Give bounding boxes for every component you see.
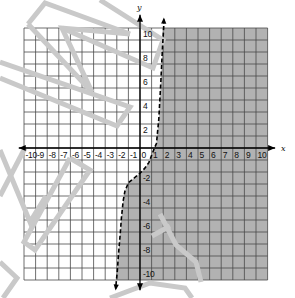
x-tick-label: -10 bbox=[26, 150, 38, 160]
y-tick-label: -10 bbox=[143, 269, 155, 279]
y-tick-label: 2 bbox=[143, 125, 148, 135]
x-tick-label: 8 bbox=[234, 150, 239, 160]
x-tick-label: -5 bbox=[84, 150, 92, 160]
x-tick-label: 6 bbox=[211, 150, 216, 160]
y-tick-label: 4 bbox=[143, 101, 148, 111]
y-tick-label: 8 bbox=[143, 53, 148, 63]
x-tick-label: 9 bbox=[246, 150, 251, 160]
x-tick-label: -7 bbox=[60, 150, 68, 160]
y-tick-label: -6 bbox=[143, 221, 151, 231]
x-tick-label: -8 bbox=[49, 150, 57, 160]
x-tick-label: -9 bbox=[37, 150, 45, 160]
x-tick-label: -1 bbox=[130, 150, 138, 160]
y-tick-label: 6 bbox=[143, 77, 148, 87]
y-tick-label: -4 bbox=[143, 197, 151, 207]
y-tick-label: -8 bbox=[143, 245, 151, 255]
inequality-graph: -10-9-8-7-6-5-4-3-2-1012345678910108642-… bbox=[0, 0, 295, 298]
x-tick-label: 4 bbox=[188, 150, 193, 160]
x-tick-label: 2 bbox=[165, 150, 170, 160]
x-axis-title: x bbox=[281, 144, 286, 153]
x-tick-label: 0 bbox=[142, 150, 147, 160]
y-axis-title: y bbox=[136, 3, 142, 12]
x-tick-label: 10 bbox=[258, 150, 267, 160]
x-tick-label: -3 bbox=[107, 150, 115, 160]
x-tick-label: -2 bbox=[118, 150, 126, 160]
x-tick-label: -4 bbox=[95, 150, 103, 160]
y-tick-label: 10 bbox=[143, 29, 152, 39]
x-tick-label: 5 bbox=[200, 150, 205, 160]
y-tick-label: -2 bbox=[143, 173, 151, 183]
x-tick-label: 3 bbox=[176, 150, 181, 160]
x-tick-label: 7 bbox=[223, 150, 228, 160]
x-tick-label: -6 bbox=[72, 150, 80, 160]
